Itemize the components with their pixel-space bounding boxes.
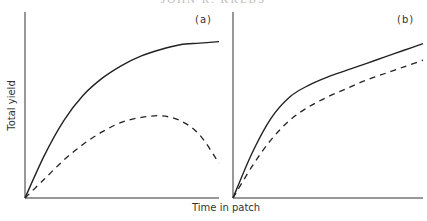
y-axis-label: Total yield (6, 80, 17, 131)
x-axis-label: Time in patch (192, 202, 260, 213)
panel-b-dashed-curve (233, 60, 423, 198)
panel-a-dashed-curve (25, 116, 219, 198)
panel-a-axes (25, 12, 219, 198)
panel-a-label: (a) (195, 14, 212, 25)
panel-a-solid-curve (25, 42, 219, 198)
panel-b-axes (233, 12, 423, 198)
chart-canvas (0, 0, 427, 221)
panel-b-solid-curve (233, 44, 423, 198)
panel-b-label: (b) (397, 14, 414, 25)
